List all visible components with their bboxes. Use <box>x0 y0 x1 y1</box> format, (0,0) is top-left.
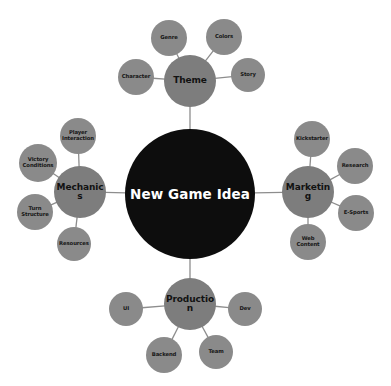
branch-node-theme-label: Theme <box>164 76 216 85</box>
leaf-node-resources[interactable]: Resources <box>57 227 91 261</box>
leaf-node-dev-label: Dev <box>228 306 262 312</box>
leaf-node-victory-conditions-label: Victory Conditions <box>19 157 57 169</box>
leaf-node-turn-structure[interactable]: Turn Structure <box>17 194 53 230</box>
leaf-node-e-sports[interactable]: E-Sports <box>338 195 374 231</box>
branch-node-production-label: Production <box>164 295 216 314</box>
leaf-node-turn-structure-label: Turn Structure <box>17 206 53 218</box>
leaf-node-kickstarter[interactable]: Kickstarter <box>294 121 330 157</box>
leaf-node-kickstarter-label: Kickstarter <box>294 136 330 142</box>
leaf-node-dev[interactable]: Dev <box>228 292 262 326</box>
leaf-node-character[interactable]: Character <box>118 59 154 95</box>
leaf-node-genre-label: Genre <box>151 35 187 41</box>
leaf-node-ui[interactable]: UI <box>109 292 143 326</box>
leaf-node-ui-label: UI <box>109 306 143 312</box>
branch-node-mechanics[interactable]: Mechanics <box>54 166 106 218</box>
leaf-node-player-interaction-label: Player Interaction <box>60 130 96 142</box>
leaf-node-genre[interactable]: Genre <box>151 20 187 56</box>
branch-node-marketing-label: Marketing <box>282 183 334 202</box>
leaf-node-team[interactable]: Team <box>199 335 233 369</box>
leaf-node-story-label: Story <box>231 72 265 78</box>
leaf-node-web-content-label: Web Content <box>290 236 326 248</box>
leaf-node-victory-conditions[interactable]: Victory Conditions <box>19 144 57 182</box>
leaf-node-character-label: Character <box>118 74 154 80</box>
center-node-label: New Game Idea <box>125 186 255 202</box>
center-node[interactable]: New Game Idea <box>125 129 255 259</box>
leaf-node-player-interaction[interactable]: Player Interaction <box>60 118 96 154</box>
mind-map-diagram: New Game IdeaThemeCharacterGenreColorsSt… <box>0 0 391 386</box>
leaf-node-backend-label: Backend <box>146 352 182 358</box>
leaf-node-team-label: Team <box>199 349 233 355</box>
leaf-node-colors[interactable]: Colors <box>206 19 242 55</box>
leaf-node-e-sports-label: E-Sports <box>338 210 374 216</box>
branch-node-mechanics-label: Mechanics <box>54 183 106 202</box>
branch-node-marketing[interactable]: Marketing <box>282 166 334 218</box>
leaf-node-story[interactable]: Story <box>231 58 265 92</box>
leaf-node-resources-label: Resources <box>57 241 91 247</box>
leaf-node-backend[interactable]: Backend <box>146 337 182 373</box>
leaf-node-web-content[interactable]: Web Content <box>290 224 326 260</box>
leaf-node-research[interactable]: Research <box>337 148 373 184</box>
branch-node-theme[interactable]: Theme <box>164 55 216 107</box>
leaf-node-colors-label: Colors <box>206 34 242 40</box>
leaf-node-research-label: Research <box>337 163 373 169</box>
branch-node-production[interactable]: Production <box>164 278 216 330</box>
